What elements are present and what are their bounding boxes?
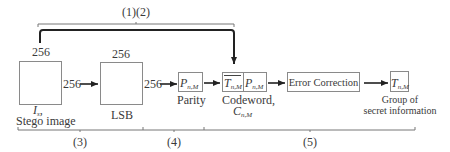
secret-caption-line2: secret information xyxy=(355,105,445,117)
codeword-left-symbol: Tn,M xyxy=(224,77,242,93)
codeword-left-sub: n,M xyxy=(231,83,242,91)
top-brace xyxy=(38,22,234,27)
codeword-right-sub: n,M xyxy=(252,83,263,91)
lsb-size-top: 256 xyxy=(112,48,130,60)
bottom-brace-label-5: (5) xyxy=(295,136,325,148)
bottom-brace-5 xyxy=(204,127,415,132)
feedback-path xyxy=(40,30,234,64)
secret-symbol: Tn,M xyxy=(391,77,409,93)
parity-caption: Parity xyxy=(177,94,206,106)
parity-symbol: Pn,M xyxy=(180,77,198,93)
bottom-brace-4 xyxy=(143,127,204,132)
bottom-brace-label-4: (4) xyxy=(159,136,189,148)
codeword-caption-main: C xyxy=(233,104,241,118)
codeword-divider xyxy=(243,72,244,92)
top-brace-label: (1)(2) xyxy=(116,6,156,18)
error-correction-label: Error Correction xyxy=(287,77,360,89)
parity-symbol-sub: n,M xyxy=(187,83,198,91)
lsb-size-right: 256 xyxy=(144,78,162,90)
bottom-brace-label-3: (3) xyxy=(65,136,95,148)
secret-symbol-sub: n,M xyxy=(398,83,409,91)
codeword-right-symbol: Pn,M xyxy=(245,77,263,93)
secret-symbol-main: T xyxy=(391,76,398,90)
codeword-caption-symbol: Cn,M xyxy=(233,105,252,121)
lsb-caption: LSB xyxy=(111,109,133,121)
lsb-box xyxy=(100,62,143,105)
stego-size-right: 256 xyxy=(63,78,81,90)
codeword-caption-sub: n,M xyxy=(241,111,252,119)
stego-image-box xyxy=(19,61,62,105)
stego-size-top: 256 xyxy=(32,46,50,58)
codeword-left-main: T xyxy=(224,76,231,90)
stego-caption: Stego image xyxy=(16,115,76,127)
